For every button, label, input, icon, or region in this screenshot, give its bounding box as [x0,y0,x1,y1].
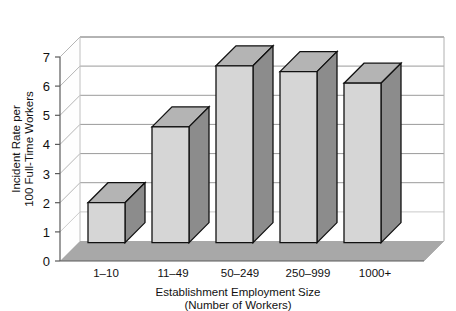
bar-column-2 [216,46,273,243]
bar-chart-figure: 7 6 5 4 3 2 1 0 [0,0,456,311]
y-tick-label-5: 5 [43,108,50,123]
y-tick-label-6: 6 [43,79,50,94]
x-axis-category-labels: 1–10 11–49 50–249 250–999 1000+ [93,267,391,279]
bar-column-1 [152,107,209,243]
bar-front-face-1 [152,127,189,243]
bar-front-face-2 [216,66,253,243]
x-tick-label-4: 1000+ [359,267,392,279]
y-axis-ticks [55,57,60,261]
y-tick-label-0: 0 [43,254,50,269]
bar-column-3 [280,52,337,243]
y-axis-tick-labels: 7 6 5 4 3 2 1 0 [43,50,50,269]
chart-canvas: 7 6 5 4 3 2 1 0 [0,0,456,311]
y-tick-label-1: 1 [43,225,50,240]
x-tick-label-0: 1–10 [93,267,119,279]
x-axis-title-line1: Establishment Employment Size [156,286,321,298]
y-axis-title-line1: Incident Rate per [10,105,22,193]
x-tick-label-1: 11–49 [157,267,188,279]
bar-column-4 [344,63,401,242]
y-tick-label-7: 7 [43,50,50,65]
bar-front-face-3 [280,72,317,243]
y-axis-title: Incident Rate per 100 Full-Time Workers [10,91,35,207]
plot-floor [60,241,444,261]
y-tick-label-3: 3 [43,167,50,182]
x-tick-label-3: 250–999 [286,267,331,279]
bar-front-face-0 [88,203,125,243]
bar-side-face-4 [381,63,401,242]
bar-side-face-2 [253,46,273,243]
x-axis-title-line2: (Number of Workers) [184,299,291,311]
bar-side-face-3 [317,52,337,243]
plot-left-wall [60,37,80,261]
y-tick-label-4: 4 [43,137,50,152]
bar-front-face-4 [344,83,381,242]
bar-side-face-1 [189,107,209,243]
x-tick-label-2: 50–249 [221,267,259,279]
y-tick-label-2: 2 [43,196,50,211]
y-axis-title-line2: 100 Full-Time Workers [23,91,35,207]
x-axis-title: Establishment Employment Size (Number of… [156,286,321,311]
